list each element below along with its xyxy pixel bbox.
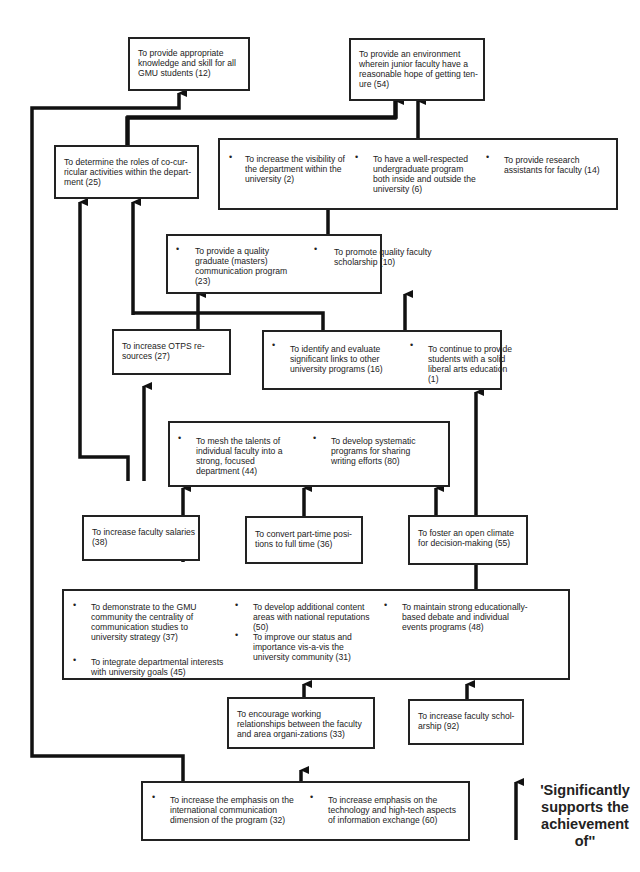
bullet: • <box>73 655 76 665</box>
goal-text-10: To promote quality faculty scholarship (… <box>334 247 434 267</box>
goal-text-36: To convert part-time posi-tions to full … <box>255 529 359 549</box>
bullet: • <box>152 792 155 802</box>
goal-box-16-1: • To identify and evaluate significant l… <box>262 330 502 390</box>
goal-box-32-60: • To increase the emphasis on the intern… <box>141 781 470 841</box>
goal-text-60: To increase emphasis on the technology a… <box>328 795 462 825</box>
goal-text-50: To develop additional content areas with… <box>253 602 381 632</box>
goal-text-14: To provide research assistants for facul… <box>504 155 604 175</box>
goal-text-54: To provide an environment wherein junior… <box>359 49 479 89</box>
goal-text-2: To increase the visibility of the depart… <box>245 154 345 184</box>
goal-text-48: To maintain strong educationally-based d… <box>402 602 536 632</box>
bullet: • <box>73 600 76 610</box>
goal-text-44: To mesh the talents of individual facult… <box>196 436 300 476</box>
bullet: • <box>313 433 316 443</box>
bullet: • <box>235 630 238 640</box>
goal-text-12: To provide appropriate knowledge and ski… <box>138 48 246 78</box>
goal-text-55: To foster an open climate for decision-m… <box>418 528 522 548</box>
goal-text-37: To demonstrate to the GMU community the … <box>91 602 225 642</box>
bullet: • <box>178 433 181 443</box>
bullet: • <box>272 340 275 350</box>
goal-box-92: To increase faculty schol-arship (92) <box>408 699 524 745</box>
goal-box-38: To increase faculty salaries (38) <box>82 515 200 561</box>
goal-box-44-80: • To mesh the talents of individual facu… <box>168 421 450 487</box>
goal-box-55: To foster an open climate for decision-m… <box>408 515 528 565</box>
goal-text-38: To increase faculty salaries (38) <box>92 527 196 547</box>
bullet: • <box>355 152 358 162</box>
goal-box-33: To encourage working relationships betwe… <box>227 697 375 749</box>
goal-box-12: To provide appropriate knowledge and ski… <box>128 37 250 91</box>
bullet: • <box>235 600 238 610</box>
goal-box-27: To increase OTPS re-sources (27) <box>112 329 231 375</box>
goal-text-25: To determine the roles of co-cur-ricular… <box>64 157 192 187</box>
goal-text-32: To increase the emphasis on the internat… <box>170 795 296 825</box>
bullet: • <box>384 600 387 610</box>
goal-text-6: To have a well-respected undergraduate p… <box>373 154 479 194</box>
bullet: • <box>229 152 232 162</box>
goal-box-54: To provide an environment wherein junior… <box>349 38 485 101</box>
goal-text-31: To improve our status and importance vis… <box>253 632 381 662</box>
goal-text-1: To continue to provide students with a s… <box>428 344 514 384</box>
goal-box-25: To determine the roles of co-cur-ricular… <box>54 145 199 199</box>
goal-box-23-10: • To provide a quality graduate (masters… <box>166 234 382 294</box>
goal-text-33: To encourage working relationships betwe… <box>237 709 371 739</box>
bullet: • <box>486 152 489 162</box>
bullet: • <box>176 244 179 254</box>
goal-text-16: To identify and evaluate significant lin… <box>290 344 390 374</box>
goal-text-27: To increase OTPS re-sources (27) <box>122 341 222 361</box>
legend-label: 'Significantly supports the achievement … <box>530 782 640 850</box>
goal-box-37-45-50-31-48: • To demonstrate to the GMU community th… <box>62 589 570 680</box>
bullet: • <box>410 340 413 350</box>
goal-text-80: To develop systematic programs for shari… <box>331 436 437 466</box>
goal-text-23: To provide a quality graduate (masters) … <box>195 246 299 286</box>
goal-box-36: To convert part-time posi-tions to full … <box>245 516 363 564</box>
goal-text-45: To integrate departmental interests with… <box>91 657 225 677</box>
goal-text-92: To increase faculty schol-arship (92) <box>418 711 518 731</box>
bullet: • <box>314 244 317 254</box>
bullet: • <box>310 792 313 802</box>
goal-box-2-6-14: • To increase the visibility of the depa… <box>218 138 618 210</box>
up-arrow-icon <box>508 778 524 842</box>
